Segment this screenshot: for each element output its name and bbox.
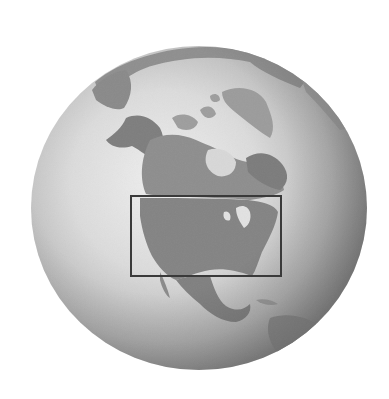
- globe-svg: [0, 0, 389, 399]
- globe-figure: Contiguous United States: [0, 0, 389, 399]
- globe-shading: [31, 46, 367, 370]
